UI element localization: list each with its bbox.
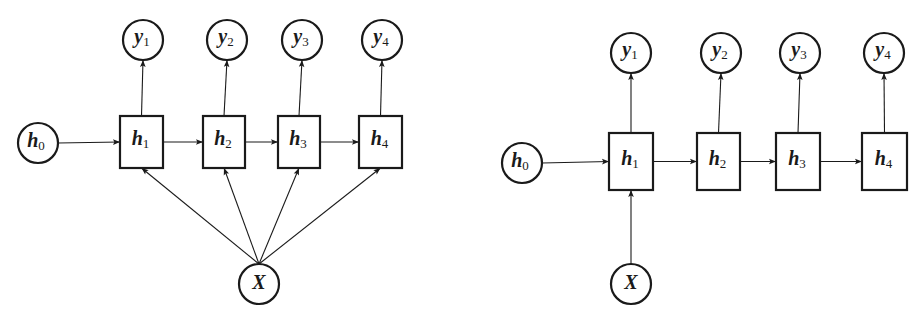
edge-h2-y2 <box>224 60 227 116</box>
edge-h1-y1 <box>142 60 144 116</box>
label-x: X <box>623 271 638 293</box>
edge-h0-h1 <box>58 142 120 143</box>
edge-x-h3 <box>259 168 299 264</box>
label-x: X <box>251 271 266 293</box>
diagram-input-every-step: h0h1h2h3h4y1y2y3y4X <box>18 20 402 304</box>
edge-h3-y3 <box>798 73 800 133</box>
rnn-diagrams: h0h1h2h3h4y1y2y3y4X h0h1h2h3h4y1y2y3y4X <box>0 0 919 319</box>
edge-h4-y4 <box>884 73 885 133</box>
diagram-input-first-step: h0h1h2h3h4y1y2y3y4X <box>502 33 907 304</box>
edge-h0-h1 <box>542 162 609 164</box>
edge-h2-y2 <box>719 73 722 133</box>
edge-h3-y3 <box>299 60 302 116</box>
edge-h4-y4 <box>381 60 383 116</box>
edge-x-h4 <box>259 168 381 264</box>
